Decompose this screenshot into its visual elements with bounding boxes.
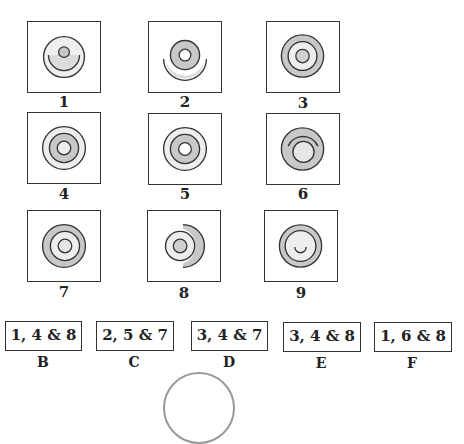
figure-2 (148, 21, 222, 93)
partial-circle-icon (163, 372, 235, 444)
figure-5-label: 5 (148, 186, 222, 202)
figure-7 (27, 210, 101, 282)
option-e-box[interactable]: 3, 4 & 8 (283, 322, 361, 352)
circle-figure-3-icon (267, 22, 339, 92)
option-c-box[interactable]: 2, 5 & 7 (96, 321, 174, 351)
figure-3-label: 3 (266, 95, 340, 111)
figure-3 (266, 21, 340, 93)
option-d-letter: D (191, 354, 267, 370)
figure-7-label: 7 (27, 284, 101, 300)
option-c-letter: C (96, 354, 172, 370)
figure-6-label: 6 (266, 186, 340, 202)
option-b-box[interactable]: 1, 4 & 8 (5, 321, 82, 351)
circle-figure-6-icon (267, 114, 339, 184)
circle-figure-1-icon (28, 22, 100, 92)
figure-6 (266, 113, 340, 185)
figure-5 (148, 113, 222, 185)
figure-8 (147, 210, 221, 282)
circle-figure-7-icon (28, 211, 100, 281)
circle-figure-9-icon (265, 211, 337, 281)
figure-1-label: 1 (27, 94, 101, 110)
figure-4 (27, 112, 101, 184)
figure-2-label: 2 (148, 94, 222, 110)
option-f-box[interactable]: 1, 6 & 8 (374, 322, 452, 352)
figure-4-label: 4 (27, 186, 101, 202)
figure-9 (264, 210, 338, 282)
option-d-box[interactable]: 3, 4 & 7 (191, 321, 268, 351)
option-f-letter: F (374, 355, 450, 371)
circle-figure-5-icon (149, 114, 221, 184)
figure-9-label: 9 (264, 285, 338, 301)
figure-1 (27, 21, 101, 93)
option-b-letter: B (5, 354, 81, 370)
option-e-letter: E (283, 355, 359, 371)
figure-8-label: 8 (147, 285, 221, 301)
circle-figure-8-icon (148, 211, 220, 281)
circle-figure-2-icon (149, 22, 221, 92)
circle-figure-4-icon (28, 113, 100, 183)
